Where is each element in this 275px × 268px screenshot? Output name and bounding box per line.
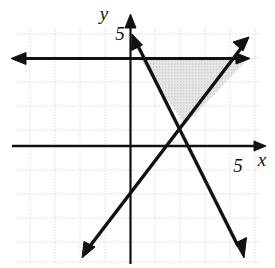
graph-figure: y 5 x 5 [0,0,275,268]
x-axis-label: x [257,149,267,170]
line-horizontal-arrow-left [11,53,26,65]
coordinate-plane-svg: y 5 x 5 [0,0,275,268]
x-axis-tick-label-5: 5 [233,155,243,176]
y-axis-tick-label-5: 5 [115,23,125,44]
line-rising-arrow-top [233,37,249,51]
y-axis-arrow [125,14,136,28]
shaded-solution-region [140,59,248,125]
y-axis-label: y [98,3,109,24]
